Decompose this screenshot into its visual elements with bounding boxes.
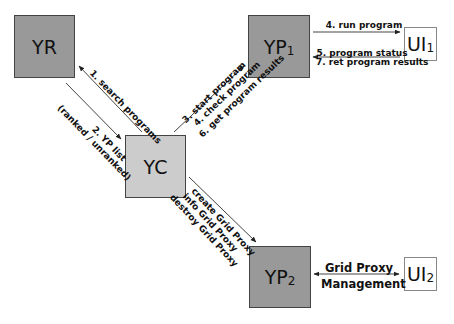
node-ui1: UI1 xyxy=(404,27,437,61)
node-yp2-subscript: 2 xyxy=(288,274,296,288)
node-ui1-label: UI xyxy=(407,33,427,55)
node-ui2-subscript: 2 xyxy=(426,271,434,285)
node-yp1-subscript: 1 xyxy=(287,44,295,58)
node-yp2: YP2 xyxy=(249,246,311,308)
label-management-text: Management xyxy=(321,278,397,291)
label-ret-program-results-text: 7. ret program results xyxy=(316,58,408,67)
node-yr-label: YR xyxy=(32,36,57,58)
node-yr: YR xyxy=(14,15,75,78)
label-run-program-text: 4. run program xyxy=(326,20,403,30)
label-program-status: 5. program status 7. ret program results xyxy=(316,49,408,67)
node-ui1-subscript: 1 xyxy=(426,41,434,55)
node-yp2-label: YP xyxy=(265,266,288,288)
node-ui2-label: UI xyxy=(407,263,427,285)
label-run-program: 4. run program xyxy=(324,20,404,30)
label-grid-proxy-text: Grid Proxy xyxy=(321,262,397,275)
label-grid-proxy-management: Grid Proxy Management xyxy=(321,262,397,291)
node-ui2: UI2 xyxy=(404,257,437,291)
node-yc-label: YC xyxy=(144,156,168,178)
